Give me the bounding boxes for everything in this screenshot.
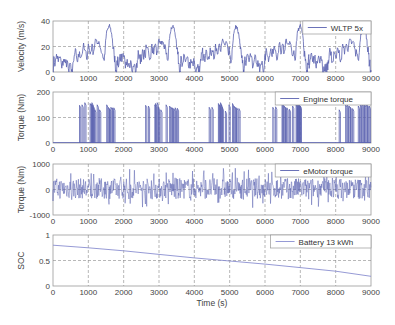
x-tick-label: 9000: [362, 74, 380, 83]
x-tick-label: 2000: [115, 74, 133, 83]
y-axis-label: Torque (Nm): [16, 94, 26, 141]
legend: WLTP 5x: [303, 21, 371, 34]
y-tick-label: 1: [46, 231, 51, 240]
x-tick-label: 5000: [221, 74, 239, 83]
legend-label: Battery 13 kWh: [299, 238, 354, 247]
y-tick-label: 40: [41, 17, 50, 26]
x-tick-label: 6000: [256, 288, 274, 297]
x-tick-label: 3000: [150, 74, 168, 83]
x-tick-label: 6000: [256, 145, 274, 154]
y-tick-label: 1000: [32, 160, 50, 169]
x-tick-label: 0: [51, 74, 56, 83]
x-tick-label: 5000: [221, 145, 239, 154]
x-tick-label: 3000: [150, 288, 168, 297]
x-tick-label: 0: [51, 288, 56, 297]
x-tick-label: 6000: [256, 217, 274, 226]
x-tick-label: 4000: [185, 145, 203, 154]
y-tick-label: 0: [46, 68, 51, 77]
x-tick-label: 4000: [185, 74, 203, 83]
y-tick-label: 0.5: [39, 257, 51, 266]
x-tick-label: 0: [51, 145, 56, 154]
y-axis-label: Torque (Nm): [16, 166, 26, 213]
x-tick-label: 6000: [256, 74, 274, 83]
legend: eMotor torque: [275, 164, 371, 177]
x-tick-label: 4000: [185, 288, 203, 297]
subplot-2: 0100020003000400050006000700080009000010…: [16, 88, 380, 154]
y-axis-label: SOC: [16, 251, 26, 269]
y-axis-label: Velocity (m/s): [16, 21, 26, 72]
x-tick-label: 5000: [221, 217, 239, 226]
x-tick-label: 5000: [221, 288, 239, 297]
subplot-3: 0100020003000400050006000700080009000-10…: [16, 160, 380, 226]
y-tick-label: 20: [41, 43, 50, 52]
subplot-4: 010002000300040005000600070008000900000.…: [16, 231, 380, 308]
x-tick-label: 2000: [115, 217, 133, 226]
x-tick-label: 9000: [362, 288, 380, 297]
x-tick-label: 4000: [185, 217, 203, 226]
y-tick-label: 100: [37, 114, 51, 123]
x-tick-label: 7000: [291, 145, 309, 154]
legend: Battery 13 kWh: [271, 235, 371, 248]
x-tick-label: 3000: [150, 217, 168, 226]
x-tick-label: 1000: [79, 288, 97, 297]
x-tick-label: 8000: [327, 288, 345, 297]
legend: Engine torque: [275, 92, 371, 105]
x-tick-label: 7000: [291, 74, 309, 83]
x-tick-label: 3000: [150, 145, 168, 154]
x-tick-label: 9000: [362, 217, 380, 226]
y-tick-label: -1000: [30, 211, 51, 220]
x-tick-label: 8000: [327, 145, 345, 154]
x-tick-label: 2000: [115, 288, 133, 297]
x-tick-label: 9000: [362, 145, 380, 154]
y-tick-label: 200: [37, 88, 51, 97]
y-tick-label: 0: [46, 282, 51, 291]
y-tick-label: 0: [46, 186, 51, 195]
legend-label: eMotor torque: [303, 167, 353, 176]
x-tick-label: 1000: [79, 145, 97, 154]
legend-label: WLTP 5x: [331, 24, 363, 33]
y-tick-label: 0: [46, 139, 51, 148]
figure: 0100020003000400050006000700080009000020…: [0, 0, 395, 325]
x-tick-label: 1000: [79, 217, 97, 226]
x-tick-label: 7000: [291, 288, 309, 297]
x-axis-label: Time (s): [197, 298, 228, 308]
legend-label: Engine torque: [303, 95, 353, 104]
x-tick-label: 8000: [327, 217, 345, 226]
x-tick-label: 1000: [79, 74, 97, 83]
x-tick-label: 0: [51, 217, 56, 226]
x-tick-label: 7000: [291, 217, 309, 226]
subplot-1: 0100020003000400050006000700080009000020…: [16, 17, 380, 83]
x-tick-label: 2000: [115, 145, 133, 154]
x-tick-label: 8000: [327, 74, 345, 83]
